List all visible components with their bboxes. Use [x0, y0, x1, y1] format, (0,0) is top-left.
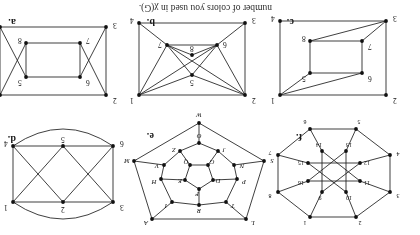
graph-vertex-label: 2: [359, 220, 362, 226]
graph-vertex: [344, 149, 348, 153]
graph-vertex-label: 3: [113, 21, 117, 30]
scanned-page: 12345678910111213141516 f. ALSMWTRIPHNVJ…: [0, 0, 420, 235]
graph-vertex: [190, 53, 194, 57]
graph-vertex-label: 6: [120, 139, 124, 148]
graph-vertex: [215, 43, 219, 47]
graph-edge: [199, 202, 226, 205]
graph-vertex-label: 10: [346, 195, 352, 201]
graph-vertex-label: 9: [319, 195, 322, 201]
graph-vertex-label: 5: [61, 135, 65, 144]
graph-vertex: [306, 179, 310, 183]
graph-vertex-label: J: [221, 147, 225, 154]
graph-vertex-label: 5: [358, 119, 361, 125]
graph-vertex-label: 15: [298, 160, 304, 166]
graph-vertex: [24, 41, 28, 45]
graph-edge: [234, 161, 264, 165]
graph-vertex-label: S: [270, 158, 274, 165]
graph-vertex-label: 3: [393, 14, 397, 23]
graph-vertex-label: 7: [158, 40, 162, 49]
graph-vertex: [244, 217, 248, 221]
graph-vertex: [104, 93, 108, 97]
graph-vertex: [232, 163, 236, 167]
graph-vertex: [358, 179, 362, 183]
graph-vertex-label: 3: [397, 193, 400, 199]
graph-vertex-label: 7: [368, 42, 372, 51]
graph-vertex-label: P: [242, 179, 247, 186]
graph-vertex-label: 2: [393, 96, 397, 105]
graph-vertex: [354, 127, 358, 131]
graph-vertex-label: 12: [364, 160, 370, 166]
graph-edge: [356, 192, 390, 217]
graph-edge: [217, 23, 245, 45]
graph-edge: [226, 179, 237, 202]
graph-vertex: [358, 161, 362, 165]
graph-vertex: [165, 43, 169, 47]
graph-vertex-label: H: [150, 179, 157, 186]
graph-vertex-label: 4: [271, 14, 275, 23]
graph-vertex: [78, 41, 82, 45]
graph-vertex: [388, 153, 392, 157]
graph-vertex: [211, 178, 215, 182]
graph-edge: [134, 161, 164, 165]
graph-vertex: [190, 73, 194, 77]
graph-vertex: [360, 71, 364, 75]
graph-vertex: [278, 93, 282, 97]
graph-vertex-label: 8: [18, 36, 22, 45]
graph-edge: [278, 129, 310, 155]
graph-panel-b: 12345678: [122, 7, 257, 107]
graph-vertex: [137, 93, 141, 97]
graph-f-svg: 12345678910111213141516: [262, 117, 402, 225]
graph-vertex: [111, 144, 115, 148]
graph-vertex: [320, 149, 324, 153]
figure-caption: number of colors you used in χ(G).: [4, 3, 272, 13]
graph-vertex-label: G: [209, 159, 214, 166]
graph-vertex-label: 2: [61, 205, 65, 214]
graph-vertex-label: V: [154, 163, 159, 170]
graph-edge: [192, 45, 217, 75]
graph-vertex-label: 4: [130, 16, 134, 25]
graph-vertex: [0, 25, 2, 29]
panel-tag-f: f.: [296, 132, 302, 143]
graph-panel-a: 12345678: [0, 7, 118, 107]
graph-vertex: [344, 190, 348, 194]
graph-edge: [322, 151, 360, 181]
graph-panel-e: ALSMWTRIPHNVJZOFDEGQ: [120, 113, 270, 227]
graph-vertex-label: 1: [130, 96, 134, 105]
graph-vertex: [360, 39, 364, 43]
graph-a-svg: 12345678: [0, 7, 118, 107]
graph-edge: [172, 202, 199, 205]
graph-vertex-label: O: [196, 133, 201, 140]
graph-vertex: [170, 200, 174, 204]
graph-vertex: [216, 149, 220, 153]
graph-e-svg: ALSMWTRIPHNVJZOFDEGQ: [120, 113, 270, 227]
graph-vertex: [384, 19, 388, 23]
graph-vertex: [150, 217, 154, 221]
graph-vertex: [320, 190, 324, 194]
graph-vertex: [308, 127, 312, 131]
graph-vertex: [278, 19, 282, 23]
graph-edge: [280, 73, 362, 95]
graph-vertex: [308, 71, 312, 75]
graph-vertex: [384, 93, 388, 97]
graph-vertex: [159, 177, 163, 181]
graph-vertex: [197, 121, 201, 125]
graph-edge: [180, 143, 199, 151]
graph-vertex: [78, 75, 82, 79]
graph-vertex-label: 6: [304, 119, 307, 125]
graph-vertex: [243, 93, 247, 97]
graph-vertex: [308, 215, 312, 219]
graph-vertex-label: 1: [304, 220, 307, 226]
graph-vertex-label: 4: [397, 151, 400, 157]
panel-tag-e: e.: [147, 131, 154, 142]
graph-vertex: [0, 93, 2, 97]
graph-vertex-label: D: [215, 178, 221, 185]
graph-vertex: [306, 161, 310, 165]
graph-edge: [199, 180, 213, 189]
graph-edge: [161, 165, 164, 179]
graph-vertex: [11, 200, 15, 204]
graph-vertex: [183, 178, 187, 182]
graph-vertex-label: 1: [4, 203, 8, 212]
graph-vertex-label: 16: [298, 180, 304, 186]
graph-edge: [185, 180, 199, 189]
graph-vertex-label: 5: [190, 78, 194, 87]
